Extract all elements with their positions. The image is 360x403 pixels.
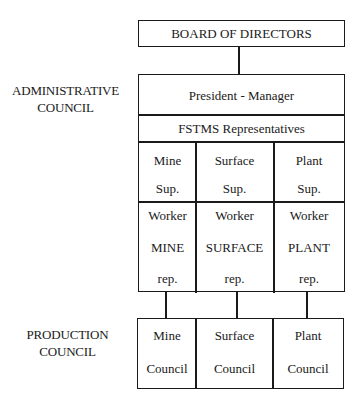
board-of-directors-label: BOARD OF DIRECTORS: [171, 27, 312, 40]
plant-supervisor-line2: Sup.: [274, 182, 344, 195]
production-council-label: PRODUCTION COUNCIL: [10, 326, 125, 360]
surface-council-line1: Surface: [196, 329, 273, 342]
plant-worker-line3: rep.: [274, 272, 344, 285]
surface-worker-rep-cell: Worker SURFACE rep.: [196, 202, 273, 291]
mine-council-line2: Council: [138, 362, 196, 375]
administrative-council-label-line1: ADMINISTRATIVE: [8, 82, 123, 99]
mine-supervisor-line1: Mine: [139, 154, 196, 167]
administrative-council-box: President - Manager FSTMS Representative…: [138, 74, 345, 292]
mine-worker-line2: MINE: [139, 241, 196, 254]
surface-supervisor-line1: Surface: [196, 154, 273, 167]
connector-surface: [236, 291, 238, 319]
mine-supervisor-line2: Sup.: [139, 182, 196, 195]
president-manager-cell: President - Manager: [139, 75, 344, 115]
surface-worker-line3: rep.: [196, 272, 273, 285]
mine-worker-rep-cell: Worker MINE rep.: [139, 202, 196, 291]
fstms-representatives-cell: FSTMS Representatives: [139, 115, 344, 142]
mine-council-line1: Mine: [138, 329, 196, 342]
president-manager-label: President - Manager: [189, 89, 294, 102]
surface-worker-line1: Worker: [196, 209, 273, 222]
fstms-representatives-label: FSTMS Representatives: [178, 122, 305, 135]
production-council-label-line1: PRODUCTION: [10, 326, 125, 343]
administrative-council-label: ADMINISTRATIVE COUNCIL: [8, 82, 123, 116]
surface-supervisor-cell: Surface Sup.: [196, 142, 273, 201]
plant-supervisor-line1: Plant: [274, 154, 344, 167]
production-council-box: Mine Council Surface Council Plant Counc…: [137, 318, 344, 389]
production-council-label-line2: COUNCIL: [10, 343, 125, 360]
plant-supervisor-cell: Plant Sup.: [274, 142, 344, 201]
surface-council-line2: Council: [196, 362, 273, 375]
plant-worker-line1: Worker: [274, 209, 344, 222]
administrative-council-label-line2: COUNCIL: [8, 99, 123, 116]
surface-supervisor-line2: Sup.: [196, 182, 273, 195]
plant-council-cell: Plant Council: [273, 319, 343, 388]
mine-worker-line3: rep.: [139, 272, 196, 285]
connector-mine: [165, 291, 167, 319]
board-of-directors-box: BOARD OF DIRECTORS: [138, 20, 345, 47]
mine-council-cell: Mine Council: [138, 319, 196, 388]
plant-council-line2: Council: [273, 362, 343, 375]
surface-council-cell: Surface Council: [196, 319, 273, 388]
mine-worker-line1: Worker: [139, 209, 196, 222]
surface-worker-line2: SURFACE: [196, 241, 273, 254]
plant-worker-rep-cell: Worker PLANT rep.: [274, 202, 344, 291]
mine-supervisor-cell: Mine Sup.: [139, 142, 196, 201]
plant-council-line1: Plant: [273, 329, 343, 342]
connector-board-admin: [238, 47, 240, 74]
connector-plant: [306, 291, 308, 319]
plant-worker-line2: PLANT: [274, 241, 344, 254]
